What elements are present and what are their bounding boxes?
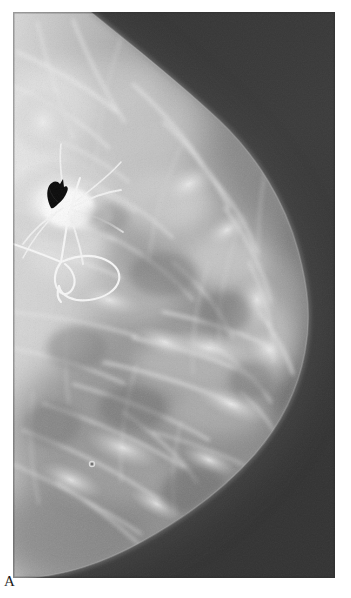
mammogram-plate [13, 12, 335, 578]
film-grain-overlay [13, 12, 335, 578]
figure-root: A [0, 0, 351, 598]
mammogram-image [13, 12, 335, 578]
panel-letter: A [4, 570, 20, 592]
